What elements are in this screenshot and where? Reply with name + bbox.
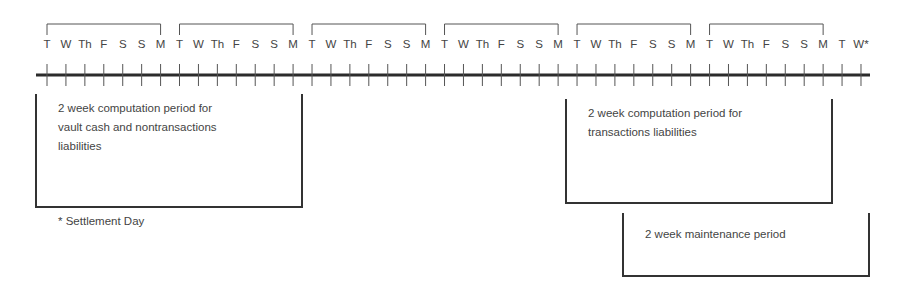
day-label: S	[119, 38, 127, 50]
day-label: T	[43, 38, 50, 50]
day-label: F	[498, 38, 505, 50]
day-label: Th	[741, 38, 754, 50]
day-label: W	[60, 38, 71, 50]
day-label: F	[100, 38, 107, 50]
day-label: T	[441, 38, 448, 50]
day-label: Th	[608, 38, 621, 50]
day-label: F	[233, 38, 240, 50]
vault-cash-computation-text: 2 week computation period for vault cash…	[58, 99, 217, 156]
day-label: S	[403, 38, 411, 50]
day-label: S	[251, 38, 259, 50]
reserve-timeline-diagram: TWThFSSMTWThFSSMTWThFSSMTWThFSSMTWThFSSM…	[0, 0, 905, 293]
transactions-computation-text: 2 week computation period for transactio…	[588, 104, 742, 142]
day-label: S	[138, 38, 146, 50]
week-bracket	[710, 24, 824, 35]
day-label: T	[309, 38, 316, 50]
day-label: W	[326, 38, 337, 50]
week-bracket	[312, 24, 426, 35]
day-label: S	[384, 38, 392, 50]
day-label: W	[591, 38, 602, 50]
week-bracket	[47, 24, 161, 35]
day-label: T	[706, 38, 713, 50]
day-label: Th	[211, 38, 224, 50]
day-label: T	[839, 38, 846, 50]
day-label: S	[270, 38, 278, 50]
week-bracket	[577, 24, 691, 35]
day-label: F	[365, 38, 372, 50]
day-label: M	[288, 38, 298, 50]
day-label: S	[649, 38, 657, 50]
day-label: S	[516, 38, 524, 50]
day-label: Th	[343, 38, 356, 50]
day-label: S	[535, 38, 543, 50]
week-bracket	[180, 24, 294, 35]
day-label: M	[818, 38, 828, 50]
day-label: M	[421, 38, 431, 50]
day-label: T	[574, 38, 581, 50]
day-label: W	[193, 38, 204, 50]
maintenance-period-text: 2 week maintenance period	[645, 225, 786, 244]
day-label: Th	[476, 38, 489, 50]
day-label: S	[800, 38, 808, 50]
day-label: M	[553, 38, 563, 50]
day-label: W	[458, 38, 469, 50]
day-label: F	[763, 38, 770, 50]
day-label: W	[723, 38, 734, 50]
maintenance-period-box	[622, 213, 870, 277]
day-label: M	[156, 38, 166, 50]
day-label: M	[686, 38, 696, 50]
week-bracket	[445, 24, 559, 35]
day-label: Th	[78, 38, 91, 50]
day-label: S	[668, 38, 676, 50]
day-label: T	[176, 38, 183, 50]
day-label: W*	[853, 38, 868, 50]
day-label: S	[781, 38, 789, 50]
day-label: F	[630, 38, 637, 50]
settlement-day-footnote: * Settlement Day	[58, 215, 144, 227]
